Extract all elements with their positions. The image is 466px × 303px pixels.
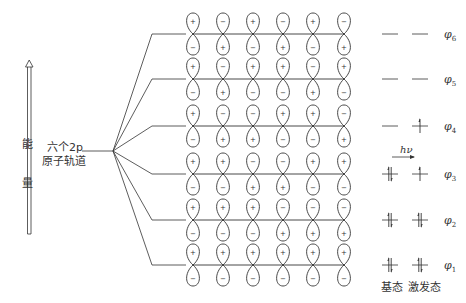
svg-text:+: + <box>190 63 196 71</box>
svg-text:+: + <box>280 249 286 257</box>
mo-label-φ2: φ2 <box>444 215 456 229</box>
svg-text:−: − <box>250 44 256 52</box>
svg-text:−: − <box>280 275 286 283</box>
svg-text:+: + <box>220 158 226 166</box>
correlation-lines <box>82 34 186 265</box>
svg-text:+: + <box>280 63 286 71</box>
svg-text:−: − <box>220 63 226 71</box>
svg-text:+: + <box>310 158 316 166</box>
svg-text:−: − <box>341 89 347 97</box>
svg-text:−: − <box>310 63 316 71</box>
svg-text:+: + <box>250 18 256 26</box>
mo-row-φ5: +−−++−+−−++− <box>187 58 351 100</box>
mo-label-φ5: φ5 <box>444 74 456 88</box>
svg-text:−: − <box>220 18 226 26</box>
excited-level-φ1 <box>412 257 428 273</box>
svg-text:−: − <box>280 18 286 26</box>
svg-text:+: + <box>250 184 256 192</box>
excitation-arrow <box>392 155 415 159</box>
mo-label-φ4: φ4 <box>444 121 456 135</box>
svg-text:+: + <box>310 18 316 26</box>
mo-label-φ1: φ1 <box>444 260 456 274</box>
svg-text:−: − <box>310 184 316 192</box>
svg-text:−: − <box>190 184 196 192</box>
svg-text:−: − <box>190 230 196 238</box>
svg-text:−: − <box>220 110 226 118</box>
mo-row-φ6: +−−++−−++−−+ <box>187 13 351 55</box>
svg-text:+: + <box>280 230 286 238</box>
svg-text:+: + <box>250 136 256 144</box>
svg-text:+: + <box>310 230 316 238</box>
excitation-label: hν <box>400 145 413 155</box>
svg-text:−: − <box>310 136 316 144</box>
svg-text:−: − <box>250 89 256 97</box>
svg-text:−: − <box>190 44 196 52</box>
excited-state-label: 激发态 <box>408 282 441 293</box>
svg-text:+: + <box>190 204 196 212</box>
svg-text:+: + <box>310 249 316 257</box>
svg-text:+: + <box>280 110 286 118</box>
ground-level-φ2 <box>382 212 398 228</box>
svg-text:−: − <box>341 110 347 118</box>
svg-text:−: − <box>341 18 347 26</box>
excited-level-φ4 <box>412 118 428 133</box>
svg-text:+: + <box>250 249 256 257</box>
svg-text:+: + <box>341 63 347 71</box>
ground-state-label: 基态 <box>381 282 403 293</box>
atomic-orbitals-label-2: 原子轨道 <box>42 156 86 167</box>
mo-row-φ3: +−+−−+−++−+− <box>187 153 351 195</box>
svg-text:−: − <box>341 204 347 212</box>
atomic-orbitals-label-1: 六个2p <box>47 142 83 153</box>
mo-row-φ2: +−+−+−−+−+−+ <box>187 199 351 241</box>
svg-text:+: + <box>220 44 226 52</box>
svg-text:−: − <box>220 184 226 192</box>
svg-text:+: + <box>190 110 196 118</box>
mo-row-φ1: +−+−+−+−+−+− <box>187 244 351 286</box>
svg-text:−: − <box>280 158 286 166</box>
svg-text:−: − <box>280 204 286 212</box>
svg-text:−: − <box>220 230 226 238</box>
svg-text:+: + <box>220 249 226 257</box>
svg-text:+: + <box>310 110 316 118</box>
svg-text:−: − <box>190 136 196 144</box>
svg-text:+: + <box>341 44 347 52</box>
svg-text:+: + <box>280 184 286 192</box>
svg-text:−: − <box>250 158 256 166</box>
svg-text:+: + <box>250 204 256 212</box>
svg-text:+: + <box>220 204 226 212</box>
svg-text:−: − <box>250 275 256 283</box>
svg-text:−: − <box>280 89 286 97</box>
ground-level-φ1 <box>382 257 398 273</box>
svg-text:+: + <box>220 89 226 97</box>
svg-text:+: + <box>341 249 347 257</box>
svg-text:+: + <box>220 136 226 144</box>
svg-text:−: − <box>250 230 256 238</box>
svg-text:+: + <box>250 63 256 71</box>
mo-label-φ6: φ6 <box>444 29 456 43</box>
svg-text:−: − <box>310 44 316 52</box>
excited-level-φ2 <box>412 212 428 228</box>
svg-text:−: − <box>341 184 347 192</box>
ground-level-φ3 <box>382 166 398 182</box>
svg-text:+: + <box>190 18 196 26</box>
energy-label-top: 能 <box>22 139 33 150</box>
svg-text:−: − <box>250 110 256 118</box>
mo-row-φ4: +−−+−++−+−−+ <box>187 105 351 147</box>
svg-text:+: + <box>341 230 347 238</box>
svg-text:−: − <box>280 136 286 144</box>
svg-text:−: − <box>310 275 316 283</box>
svg-text:+: + <box>280 44 286 52</box>
svg-text:−: − <box>341 275 347 283</box>
svg-text:−: − <box>310 204 316 212</box>
svg-text:−: − <box>220 275 226 283</box>
svg-text:+: + <box>341 158 347 166</box>
svg-text:+: + <box>190 249 196 257</box>
svg-text:−: − <box>190 89 196 97</box>
excited-level-φ3 <box>412 166 428 181</box>
svg-text:−: − <box>190 275 196 283</box>
mo-diagram: +−−++−−++−−++−−++−+−−++−+−−+−++−+−−++−+−… <box>0 0 466 303</box>
svg-text:+: + <box>310 89 316 97</box>
energy-label-bottom: 量 <box>22 178 33 189</box>
mo-label-φ3: φ3 <box>444 169 456 183</box>
svg-text:+: + <box>190 158 196 166</box>
